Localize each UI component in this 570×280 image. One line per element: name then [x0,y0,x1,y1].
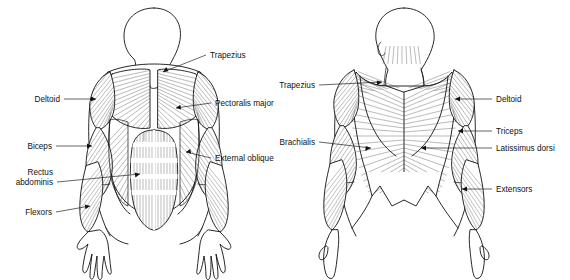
muscle-anatomy-diagram: Deltoid Biceps Rectus abdominis Flexors … [0,0,570,280]
label-latissimus-dorsi: Latissimus dorsi [496,144,555,153]
label-external-oblique: External oblique [215,154,274,163]
label-deltoid-posterior: Deltoid [496,95,522,104]
label-triceps: Triceps [496,127,523,136]
label-flexors: Flexors [25,208,52,217]
label-brachialis: Brachialis [280,138,316,147]
label-extensors: Extensors [496,185,532,194]
label-rectus-abdominis-line2: abdominis [16,178,53,187]
label-pectoralis-major: Pectoralis major [215,99,274,108]
label-rectus-abdominis-line1: Rectus [28,168,53,177]
label-trapezius-anterior: Trapezius [210,51,246,60]
label-biceps: Biceps [27,142,52,151]
label-deltoid-anterior: Deltoid [35,95,61,104]
label-trapezius-posterior: Trapezius [279,81,315,90]
